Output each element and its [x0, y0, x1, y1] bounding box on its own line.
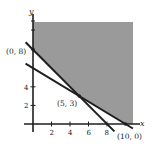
x-tick-label-8: 8	[105, 129, 109, 137]
vertex-point-0-8	[31, 48, 35, 52]
vertex-point-10-0	[124, 122, 128, 126]
annotation-0-8: (0, 8)	[6, 47, 26, 56]
shaded-feasible-region	[33, 22, 133, 124]
x-tick-label-2: 2	[50, 129, 54, 137]
x-axis-label: x	[140, 119, 145, 128]
y-tick-label-4: 4	[24, 84, 29, 92]
feasible-region-chart: y x 2 4 6 8 2 4 (0, 8) (5, 3) (10, 0)	[0, 0, 154, 144]
y-tick-label-2: 2	[24, 102, 28, 110]
annotation-10-0: (10, 0)	[117, 132, 142, 141]
x-tick-label-6: 6	[87, 129, 92, 137]
vertex-point-5-3	[77, 94, 81, 98]
y-axis-label: y	[28, 7, 34, 16]
x-tick-label-4: 4	[68, 129, 73, 137]
annotation-5-3: (5, 3)	[57, 99, 77, 108]
